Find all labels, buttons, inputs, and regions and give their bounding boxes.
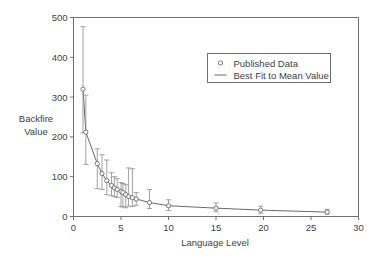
data-point-marker [81,87,85,91]
x-tick-label: 0 [71,222,76,233]
y-tick-label: 100 [52,171,68,182]
data-point-marker [259,208,263,212]
data-point-marker [95,161,99,165]
chart-figure: 0100200300400500 051015202530 Backfire V… [0,0,382,258]
y-axis-title-line1: Backfire [19,113,53,124]
data-point-marker [100,171,104,175]
x-axis-title: Language Level [181,237,249,248]
x-tick-label: 15 [211,222,222,233]
data-point-marker [147,200,151,204]
y-tick-label: 500 [52,12,68,23]
y-tick-label: 300 [52,92,68,103]
y-tick-label: 400 [52,52,68,63]
legend-label-best-fit: Best Fit to Mean Value [234,70,329,81]
data-point-marker [166,204,170,208]
y-tick-label: 200 [52,131,68,142]
data-point-marker [134,197,138,201]
chart-legend: Published DataBest Fit to Mean Value [208,54,331,83]
legend-marker-circle-icon [218,61,222,65]
data-point-marker [105,179,109,183]
x-tick-label: 30 [353,222,364,233]
data-point-marker [325,210,329,214]
x-tick-label: 10 [163,222,174,233]
legend-label-published-data: Published Data [234,58,299,69]
data-point-marker [214,206,218,210]
backfire-value-scatter-chart: 0100200300400500 051015202530 Backfire V… [0,0,382,258]
x-tick-label: 20 [258,222,269,233]
y-tick-label: 0 [62,211,67,222]
y-axis-title-line2: Value [24,126,48,137]
x-tick-label: 5 [118,222,123,233]
x-tick-label: 25 [306,222,317,233]
chart-background [0,0,382,258]
data-point-marker [84,130,88,134]
